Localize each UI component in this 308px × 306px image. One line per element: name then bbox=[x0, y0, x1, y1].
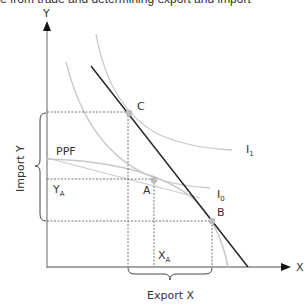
i0-label: I0 bbox=[217, 188, 225, 203]
export-brace bbox=[128, 268, 212, 280]
ppf-curve bbox=[47, 159, 228, 267]
point-c bbox=[126, 110, 133, 117]
ya-label: YA bbox=[52, 183, 65, 198]
point-a-label: A bbox=[143, 184, 151, 197]
ppf-label: PPF bbox=[56, 145, 76, 158]
ppf-tangent bbox=[47, 158, 200, 198]
point-b bbox=[209, 218, 216, 225]
import-brace bbox=[35, 113, 46, 221]
y-axis-arrow-icon bbox=[43, 21, 51, 31]
point-c-label: C bbox=[137, 100, 145, 113]
indifference-curve-i1 bbox=[96, 34, 232, 150]
y-axis-label: Y bbox=[42, 7, 50, 20]
xa-label: XA bbox=[158, 249, 171, 264]
x-axis-arrow-icon bbox=[281, 263, 291, 271]
export-x-label: Export X bbox=[147, 289, 195, 302]
import-y-label: Import Y bbox=[14, 145, 27, 192]
x-axis-label: X bbox=[296, 261, 304, 274]
trade-diagram: Y X C A B PPF I1 I0 YA XA Import Y Expor… bbox=[0, 0, 308, 306]
point-a bbox=[151, 177, 158, 184]
i1-label: I1 bbox=[246, 143, 254, 158]
point-b-label: B bbox=[217, 206, 225, 219]
